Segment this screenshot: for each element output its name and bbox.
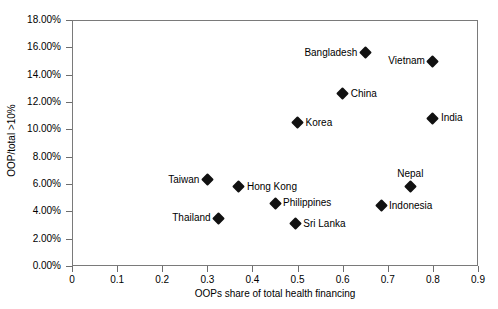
y-axis-tick-label: 2.00% <box>5 234 61 244</box>
x-axis-tick <box>162 266 163 272</box>
x-axis-tick-label: 0.3 <box>187 274 227 285</box>
x-axis-tick-label: 0.6 <box>323 274 363 285</box>
x-axis-tick <box>207 266 208 272</box>
x-axis-title: OOPs share of total health financing <box>72 288 478 299</box>
y-axis-tick <box>66 239 72 240</box>
x-axis-tick <box>478 266 479 272</box>
data-point-label: Taiwan <box>168 175 199 185</box>
x-axis-tick-label: 0.2 <box>142 274 182 285</box>
y-axis-tick <box>66 184 72 185</box>
x-axis-tick-label: 0.4 <box>232 274 272 285</box>
y-axis-tick <box>66 157 72 158</box>
data-point-label: Bangladesh <box>304 48 357 58</box>
y-axis-tick-label: 4.00% <box>5 206 61 216</box>
x-axis-tick <box>433 266 434 272</box>
y-axis-tick-label: 12.00% <box>5 97 61 107</box>
data-point-label: Indonesia <box>389 201 432 211</box>
x-axis-tick <box>72 266 73 272</box>
x-axis-tick-label: 0.1 <box>97 274 137 285</box>
x-axis-tick <box>252 266 253 272</box>
x-axis-tick-label: 0.9 <box>458 274 498 285</box>
data-point-label: Sri Lanka <box>303 219 345 229</box>
data-point-label: China <box>351 89 377 99</box>
y-axis-tick-label: 6.00% <box>5 179 61 189</box>
data-point-label: Korea <box>306 118 333 128</box>
y-axis-tick <box>66 20 72 21</box>
scatter-chart: OOP/total >10% OOPs share of total healt… <box>0 0 498 309</box>
x-axis-tick-label: 0.7 <box>368 274 408 285</box>
data-point-label: Vietnam <box>388 56 425 66</box>
data-point-label: Hong Kong <box>247 182 297 192</box>
x-axis-tick <box>388 266 389 272</box>
y-axis-tick-label: 16.00% <box>5 42 61 52</box>
y-axis-tick-label: 8.00% <box>5 152 61 162</box>
y-axis-tick-label: 14.00% <box>5 70 61 80</box>
x-axis-tick <box>343 266 344 272</box>
x-axis-tick <box>298 266 299 272</box>
data-point-label: Philippines <box>283 198 331 208</box>
x-axis-tick <box>117 266 118 272</box>
x-axis-tick-label: 0.8 <box>413 274 453 285</box>
y-axis-tick <box>66 129 72 130</box>
data-point-label: India <box>441 113 463 123</box>
y-axis-tick-label: 0.00% <box>5 261 61 271</box>
y-axis-tick <box>66 211 72 212</box>
y-axis-tick-label: 18.00% <box>5 15 61 25</box>
y-axis-tick <box>66 47 72 48</box>
x-axis-tick-label: 0 <box>52 274 92 285</box>
data-point-label: Thailand <box>172 213 210 223</box>
y-axis-tick-label: 10.00% <box>5 124 61 134</box>
y-axis-tick <box>66 75 72 76</box>
y-axis-tick <box>66 102 72 103</box>
x-axis-tick-label: 0.5 <box>278 274 318 285</box>
data-point-label: Nepal <box>397 169 423 179</box>
